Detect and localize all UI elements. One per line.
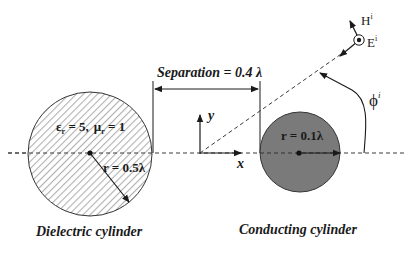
propagation-arrow xyxy=(340,42,357,56)
e-field-label: Ei xyxy=(367,34,378,50)
y-axis-label: y xyxy=(206,108,215,123)
conducting-cylinder xyxy=(260,112,340,192)
dielectric-cylinder xyxy=(8,92,153,216)
x-axis-label: x xyxy=(236,156,244,171)
dielectric-caption: Dielectric cylinder xyxy=(35,224,143,239)
conductor-radius-label: r = 0.1λ xyxy=(281,128,324,143)
separation-label: Separation = 0.4 λ xyxy=(157,65,262,80)
h-field-arrow xyxy=(350,21,357,35)
incidence-angle-label: ϕi xyxy=(369,90,381,110)
e-field-out-of-page-icon xyxy=(354,35,364,45)
h-field-label: Hi xyxy=(361,12,373,28)
dielectric-radius-label: r = 0.5λ xyxy=(103,160,146,175)
conductor-caption: Conducting cylinder xyxy=(239,222,357,237)
scattering-diagram: εr = 5,μr = 1 r = 0.5λ Separation = 0.4 … xyxy=(0,0,414,254)
separation-bracket xyxy=(153,81,260,153)
